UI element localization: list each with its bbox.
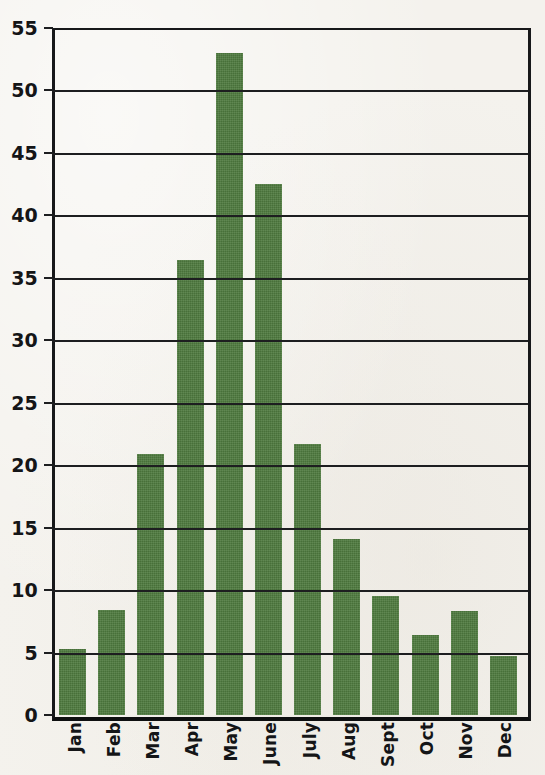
y-axis-tick-mark bbox=[44, 402, 53, 404]
bar bbox=[333, 539, 360, 715]
bar-slot bbox=[408, 28, 447, 715]
bar bbox=[177, 260, 204, 715]
bar bbox=[59, 649, 86, 715]
y-axis-tick-mark bbox=[44, 714, 53, 716]
x-axis-tick-label: Feb bbox=[105, 722, 122, 757]
bar bbox=[216, 53, 243, 715]
bar-slot bbox=[486, 28, 525, 715]
bar-slot bbox=[368, 28, 407, 715]
x-axis-tick-slot: Jan bbox=[55, 722, 94, 775]
x-axis-tick-slot: June bbox=[251, 722, 290, 775]
x-axis-tick-slot: Sept bbox=[368, 722, 407, 775]
bar bbox=[98, 610, 125, 715]
y-axis-tick-label: 50 bbox=[11, 81, 38, 100]
x-axis-tick-label: June bbox=[262, 722, 279, 765]
bar-slot bbox=[94, 28, 133, 715]
y-axis-tick-label: 40 bbox=[11, 206, 38, 225]
y-axis-tick-mark bbox=[44, 464, 53, 466]
bar-slot bbox=[133, 28, 172, 715]
y-axis-tick-label: 20 bbox=[11, 456, 38, 475]
y-axis-tick-label: 35 bbox=[11, 268, 38, 287]
y-axis-tick-label: 10 bbox=[11, 581, 38, 600]
y-axis-tick-mark bbox=[44, 652, 53, 654]
y-axis-tick-mark bbox=[44, 89, 53, 91]
bar-slot bbox=[55, 28, 94, 715]
y-axis-tick-label: 25 bbox=[11, 393, 38, 412]
x-axis-tick-slot: Apr bbox=[173, 722, 212, 775]
bar-slot bbox=[290, 28, 329, 715]
x-axis-tick-label: July bbox=[301, 722, 318, 758]
y-axis-tick-label: 55 bbox=[11, 19, 38, 38]
x-axis-tick-slot: Feb bbox=[94, 722, 133, 775]
x-axis-tick-label: Apr bbox=[184, 722, 201, 756]
bar-slot bbox=[212, 28, 251, 715]
bar-slot bbox=[447, 28, 486, 715]
bar-slot bbox=[173, 28, 212, 715]
x-axis-tick-label: Mar bbox=[144, 722, 161, 759]
x-axis-tick-label: Dec bbox=[497, 722, 514, 758]
y-axis-tick-mark bbox=[44, 277, 53, 279]
y-axis-tick-label: 15 bbox=[11, 518, 38, 537]
bar bbox=[451, 611, 478, 715]
x-axis-tick-slot: Aug bbox=[329, 722, 368, 775]
y-axis-tick-label: 45 bbox=[11, 143, 38, 162]
x-axis-tick-label: Sept bbox=[379, 722, 396, 767]
x-axis: JanFebMarAprMayJuneJulyAugSeptOctNovDec bbox=[55, 722, 525, 775]
y-axis: 0510152025303540455055 bbox=[0, 0, 46, 775]
x-axis-tick-label: May bbox=[223, 722, 240, 762]
bar bbox=[137, 454, 164, 715]
y-axis-tick-mark bbox=[44, 214, 53, 216]
bar bbox=[294, 444, 321, 715]
x-axis-tick-label: Aug bbox=[340, 722, 357, 760]
y-axis-tick-label: 5 bbox=[25, 643, 38, 662]
x-axis-tick-slot: July bbox=[290, 722, 329, 775]
y-axis-tick-label: 30 bbox=[11, 331, 38, 350]
x-axis-tick-slot: Dec bbox=[486, 722, 525, 775]
y-axis-tick-mark bbox=[44, 527, 53, 529]
y-axis-tick-mark bbox=[44, 589, 53, 591]
bar-slot bbox=[329, 28, 368, 715]
bar bbox=[372, 596, 399, 715]
bar bbox=[412, 635, 439, 715]
y-axis-tick-mark bbox=[44, 27, 53, 29]
x-axis-tick-label: Jan bbox=[66, 722, 83, 753]
bar bbox=[490, 656, 517, 715]
x-axis-tick-slot: Nov bbox=[447, 722, 486, 775]
bars-layer bbox=[55, 28, 525, 715]
y-axis-tick-label: 0 bbox=[25, 706, 38, 725]
x-axis-tick-slot: May bbox=[212, 722, 251, 775]
y-axis-tick-mark bbox=[44, 152, 53, 154]
x-axis-tick-label: Nov bbox=[458, 722, 475, 760]
x-axis-tick-slot: Mar bbox=[133, 722, 172, 775]
y-axis-tick-mark bbox=[44, 339, 53, 341]
x-axis-tick-slot: Oct bbox=[408, 722, 447, 775]
bar bbox=[255, 184, 282, 715]
bar-chart-figure: 0510152025303540455055 JanFebMarAprMayJu… bbox=[0, 0, 545, 775]
bar-slot bbox=[251, 28, 290, 715]
x-axis-tick-label: Oct bbox=[419, 722, 436, 755]
